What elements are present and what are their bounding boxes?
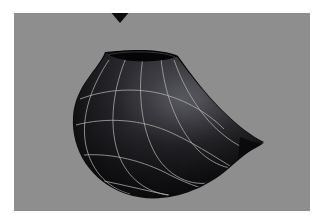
- scene-canvas[interactable]: [14, 13, 310, 211]
- render-viewport[interactable]: [14, 13, 310, 211]
- screenshot-root: [0, 0, 316, 220]
